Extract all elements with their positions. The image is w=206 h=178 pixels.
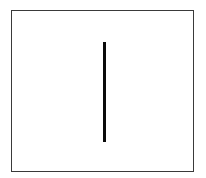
figure-canvas [0, 0, 206, 178]
vertical-line-segment [103, 42, 106, 142]
rectangle-border [11, 10, 194, 172]
